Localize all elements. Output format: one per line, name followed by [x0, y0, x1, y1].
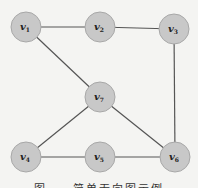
node-v1: v1	[11, 12, 41, 42]
figure-caption: 图 简单无向图示例	[0, 180, 198, 188]
node-v3: v3	[159, 14, 189, 44]
node-v5: v5	[85, 142, 115, 172]
graph-diagram: v1v2v3v7v4v5v6	[0, 0, 198, 188]
node-v7: v7	[85, 82, 115, 112]
graph-nodes: v1v2v3v7v4v5v6	[11, 12, 190, 172]
edge-v3-v6	[174, 29, 175, 157]
node-v4: v4	[11, 142, 41, 172]
node-v2: v2	[85, 12, 115, 42]
node-v6: v6	[160, 142, 190, 172]
